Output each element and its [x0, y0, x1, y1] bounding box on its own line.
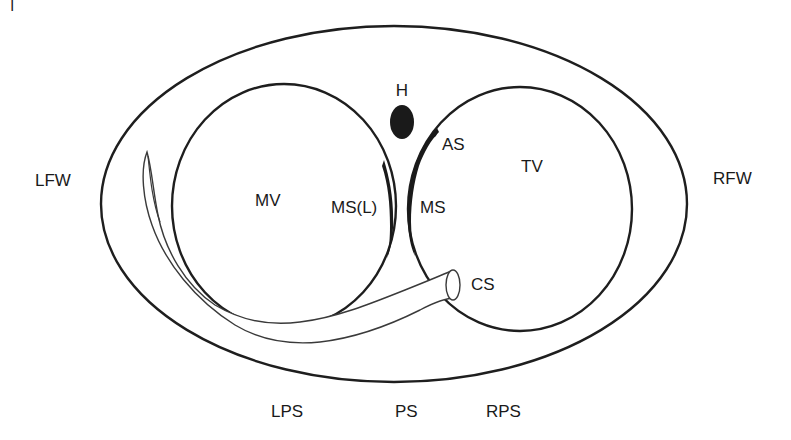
label-right-posteroseptal: RPS: [486, 402, 521, 421]
label-mitral-valve: MV: [255, 191, 281, 210]
septum-band-as: [422, 130, 438, 148]
label-tricuspid-valve: TV: [521, 157, 543, 176]
heart-annulus-diagram: | H AS TV MV MS(L) MS CS LFW RFW LPS PS …: [0, 0, 791, 440]
coronary-sinus-ostium: [446, 270, 460, 300]
label-coronary-sinus: CS: [471, 275, 495, 294]
coronary-sinus-tube: [143, 152, 455, 343]
label-mitral-septum: MS: [420, 198, 446, 217]
label-left-posteroseptal: LPS: [271, 402, 303, 421]
corner-mark: |: [10, 0, 14, 12]
label-posteroseptal: PS: [395, 402, 418, 421]
label-left-free-wall: LFW: [35, 171, 71, 190]
label-right-free-wall: RFW: [713, 169, 752, 188]
outer-annulus-ellipse: [101, 26, 687, 382]
his-bundle-marker: [390, 105, 414, 139]
label-mitral-septum-left: MS(L): [331, 198, 377, 217]
septum-band-right: [408, 128, 439, 256]
label-his-bundle: H: [396, 81, 408, 100]
label-aortic-side: AS: [442, 135, 465, 154]
